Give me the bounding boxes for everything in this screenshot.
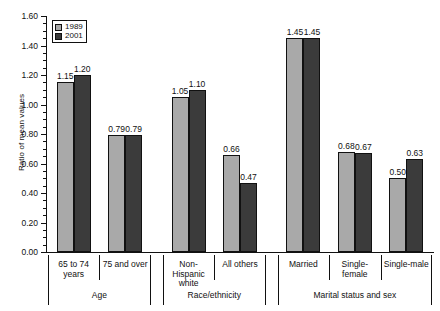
bar-chart: Ratio of mean values 0.000.200.400.600.8… [0,0,440,311]
bar [223,155,240,252]
bar [303,38,320,252]
legend-label-1989: 1989 [65,23,83,31]
bar-value-label: 1.15 [57,71,74,81]
bar [355,153,372,252]
bar-value-label: 1.05 [172,86,189,96]
legend-swatch-icon-1989 [55,24,62,31]
bar [57,82,74,252]
category-separator [99,255,100,280]
bar [389,178,406,252]
legend-label-2001: 2001 [65,32,83,40]
group-separator [431,255,432,305]
bar [74,75,91,252]
bar-value-label: 0.67 [355,142,372,152]
bar [286,38,303,252]
baseline [46,252,434,253]
category-label: Single-female [331,260,379,279]
bar [172,97,189,252]
y-tick-label: 0.00 [12,247,38,257]
y-tick-label: 0.40 [12,188,38,198]
category-label: All others [216,260,264,270]
category-label: Single-male [382,260,430,270]
bar [240,183,257,252]
bar [338,152,355,252]
bar-value-label: 0.79 [108,124,125,134]
y-tick-label: 0.60 [12,159,38,169]
y-tick-label: 1.00 [12,100,38,110]
group-label: Age [92,290,107,300]
bar-value-label: 1.45 [304,27,321,37]
bar-value-label: 0.68 [338,141,355,151]
bar-value-label: 1.45 [287,27,304,37]
y-tick-label: 0.80 [12,129,38,139]
bar-value-label: 0.66 [223,144,240,154]
bar-value-label: 0.50 [390,167,407,177]
group-label: Race/ethnicity [188,290,241,300]
bar-value-label: 0.63 [407,148,424,158]
y-tick-label: 0.20 [12,218,38,228]
group-label: Marital status and sex [314,290,397,300]
bar-value-label: 0.79 [125,124,142,134]
category-label: Married [279,260,327,270]
legend-swatch-icon-2001 [55,33,62,40]
bar [406,159,423,252]
legend: 1989 2001 [52,20,87,43]
legend-item-1989: 1989 [55,23,83,31]
category-label: 75 and over [101,260,149,270]
bar-value-label: 1.20 [74,64,91,74]
group-separator [150,255,151,305]
bar [108,135,125,252]
legend-item-2001: 2001 [55,32,83,40]
bar-value-label: 0.47 [240,172,257,182]
group-separator [265,255,266,305]
category-label: Non-Hispanic white [164,260,212,289]
plot-area: 1.151.200.790.791.051.100.660.471.451.45… [46,16,434,252]
y-tick-label: 1.60 [12,11,38,21]
category-label: 65 to 74 years [49,260,97,279]
y-tick-label: 1.40 [12,41,38,51]
bar [125,135,142,252]
bar-value-label: 1.10 [189,79,206,89]
y-tick-label: 1.20 [12,70,38,80]
bar [189,90,206,252]
